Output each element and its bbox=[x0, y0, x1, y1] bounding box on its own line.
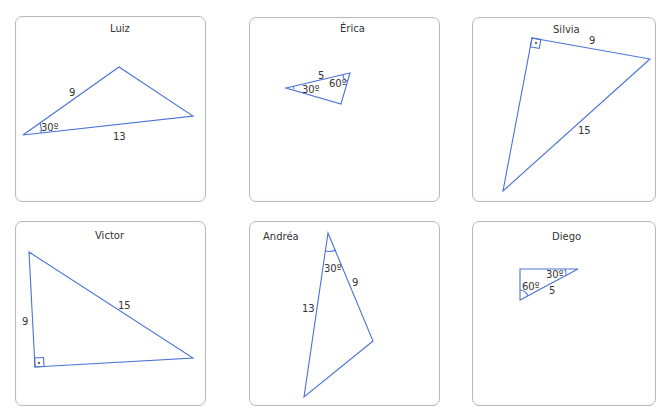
label-silvia-side-a: 9 bbox=[589, 35, 595, 46]
label-erica-angle-b: 60º bbox=[329, 78, 347, 89]
label-andrea-angle: 30º bbox=[324, 263, 342, 274]
label-andrea-side-b: 9 bbox=[352, 277, 358, 288]
label-erica-angle-a: 30º bbox=[302, 84, 320, 95]
angle-arc-andrea bbox=[325, 250, 336, 251]
triangle-victor bbox=[29, 252, 193, 367]
label-diego-angle-a: 30º bbox=[546, 269, 564, 280]
label-diego-angle-b: 60º bbox=[522, 281, 540, 292]
label-victor-side-a: 9 bbox=[22, 316, 28, 327]
triangle-silvia bbox=[503, 38, 650, 191]
label-luiz-side-b: 13 bbox=[113, 131, 126, 142]
right-angle-dot-silvia bbox=[535, 42, 537, 44]
label-silvia-side-b: 15 bbox=[578, 125, 591, 136]
label-luiz-side-a: 9 bbox=[69, 87, 75, 98]
label-diego-side-a: 5 bbox=[549, 285, 555, 296]
label-erica-side-a: 5 bbox=[318, 70, 324, 81]
right-angle-dot-victor bbox=[38, 362, 40, 364]
label-victor-side-b: 15 bbox=[118, 300, 131, 311]
label-andrea-side-a: 13 bbox=[302, 303, 315, 314]
triangles-figure: 9 13 30º 5 30º 60º 9 15 9 15 13 9 30º 5 … bbox=[0, 0, 672, 415]
label-luiz-angle: 30º bbox=[41, 122, 59, 133]
angle-arc-diego-a bbox=[565, 269, 566, 276]
triangle-andrea bbox=[304, 233, 373, 397]
